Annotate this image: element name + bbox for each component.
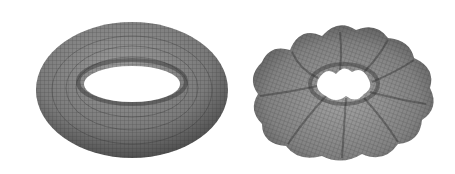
smooth-torus <box>36 22 228 158</box>
tori-diagram <box>0 0 455 174</box>
figure-canvas <box>0 0 455 174</box>
wavy-torus <box>253 25 434 160</box>
